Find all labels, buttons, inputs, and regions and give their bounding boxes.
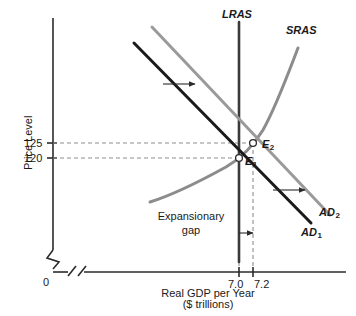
y-tick-label-120: 120: [24, 153, 42, 164]
expansionary-gap-label: Expansionary gap: [145, 210, 237, 238]
sras-curve: [150, 48, 298, 202]
x-axis-title: Real GDP per Year ($ trillions): [118, 288, 298, 310]
y-tick-label-125: 125: [24, 138, 42, 149]
ad1-curve-label: AD1: [301, 227, 322, 240]
ad-as-diagram: Price Level 125 120 7.0 7.2 0 LRAS SRAS …: [0, 0, 356, 316]
ad2-curve-label: AD2: [319, 207, 340, 220]
equilibrium-point-e1: [236, 155, 243, 162]
ad2-label-subscript: 2: [335, 211, 340, 220]
gap-label-line1: Expansionary: [158, 210, 225, 222]
gap-label-line2: gap: [182, 224, 200, 236]
ad1-label-subscript: 1: [317, 231, 322, 240]
ad2-label-text: AD: [319, 206, 335, 218]
ad1-curve: [134, 43, 311, 223]
lras-curve-label: LRAS: [222, 9, 252, 20]
equilibrium-label-e1: E1: [245, 156, 257, 169]
ad1-label-text: AD: [301, 226, 317, 238]
equilibrium-label-e2: E2: [262, 139, 274, 152]
equilibrium-point-e2: [250, 140, 257, 147]
x-axis-title-line2: ($ trillions): [183, 298, 234, 310]
e1-label-subscript: 1: [252, 160, 257, 169]
diagram-canvas: [0, 0, 356, 316]
sras-curve-label: SRAS: [286, 25, 317, 36]
guide-lines-group: [53, 143, 253, 266]
ad2-curve: [152, 27, 330, 215]
e2-label-subscript: 2: [269, 143, 274, 152]
y-axis-break-icon: [47, 250, 59, 269]
x-axis-break-icon: [68, 266, 86, 276]
origin-label: 0: [43, 277, 49, 288]
